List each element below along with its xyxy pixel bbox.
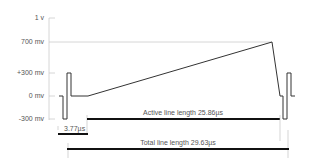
total-label: Total line length 29.63µs [140,139,216,147]
waveform-diagram: 1 v 700 mv +300 mv 0 mv -300 mv 3.77µs A… [0,0,312,167]
label-minus300mv: -300 mv [19,115,45,122]
label-700mv: 700 mv [21,38,44,45]
label-0mv: 0 mv [29,92,45,99]
active-label: Active line length 25.86µs [143,109,223,117]
label-300mv: +300 mv [17,69,45,76]
label-1v: 1 v [35,14,45,21]
waveform-line [59,42,295,119]
sync-label: 3.77µs [64,125,86,133]
